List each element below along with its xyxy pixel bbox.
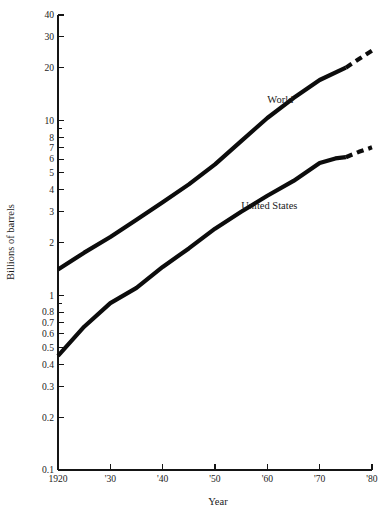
y-axis: 40302010876543210.80.70.60.50.40.30.20.1 bbox=[42, 9, 64, 475]
y-axis-tick-label: 7 bbox=[49, 142, 54, 153]
y-axis-tick-label: 2 bbox=[49, 237, 54, 248]
series-line-united-states bbox=[58, 157, 346, 356]
y-axis-tick-label: 0.6 bbox=[42, 328, 54, 339]
x-axis-tick-label: '70 bbox=[314, 473, 326, 484]
y-axis-tick-label: 30 bbox=[44, 31, 54, 42]
x-axis-tick-label: '40 bbox=[157, 473, 169, 484]
y-axis-tick-label: 20 bbox=[44, 62, 54, 73]
y-axis-tick-label: 0.7 bbox=[42, 317, 54, 328]
chart-container: 40302010876543210.80.70.60.50.40.30.20.1… bbox=[0, 0, 383, 514]
y-axis-tick-label: 1 bbox=[49, 290, 54, 301]
series-projected-united-states bbox=[346, 147, 372, 157]
series-label-united-states: United States bbox=[241, 200, 297, 211]
y-axis-tick-label: 40 bbox=[44, 9, 54, 20]
data-series-group bbox=[58, 51, 372, 356]
y-axis-tick-label: 0.3 bbox=[42, 381, 54, 392]
y-axis-tick-label: 3 bbox=[49, 206, 54, 217]
y-axis-title: Billions of barrels bbox=[5, 204, 16, 280]
x-axis-tick-label: '60 bbox=[262, 473, 274, 484]
y-axis-tick-label: 5 bbox=[49, 167, 54, 178]
x-axis-tick-label: '50 bbox=[209, 473, 221, 484]
x-axis-tick-label: 1920 bbox=[48, 473, 67, 484]
y-axis-tick-label: 0.2 bbox=[42, 412, 54, 423]
x-axis-tick-label: '30 bbox=[105, 473, 117, 484]
y-axis-tick-label: 4 bbox=[49, 184, 54, 195]
y-axis-tick-label: 0.5 bbox=[42, 342, 54, 353]
series-label-world: World bbox=[267, 94, 294, 105]
y-axis-tick-label: 0.4 bbox=[42, 359, 54, 370]
line-chart-plot: 40302010876543210.80.70.60.50.40.30.20.1… bbox=[0, 0, 383, 514]
series-projected-world bbox=[346, 51, 372, 68]
y-axis-tick-label: 10 bbox=[44, 115, 54, 126]
x-axis-tick-label: '80 bbox=[366, 473, 378, 484]
y-axis-tick-label: 6 bbox=[49, 153, 54, 164]
x-axis: 1920'30'40'50'60'70'80 bbox=[48, 464, 377, 484]
x-axis-title: Year bbox=[208, 496, 228, 507]
